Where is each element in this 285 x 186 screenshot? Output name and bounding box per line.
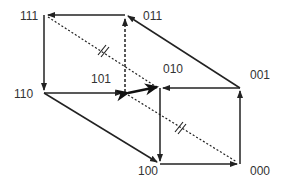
vertex-label-001: 001 xyxy=(250,69,270,81)
cube-transition-diagram xyxy=(0,0,285,186)
parallel-mark-lower xyxy=(175,122,186,134)
vertex-label-110: 110 xyxy=(14,88,33,100)
edge-101-010-bold xyxy=(128,87,157,93)
edge-001-011 xyxy=(128,16,240,88)
vertex-label-100: 100 xyxy=(138,165,158,177)
edge-110-100 xyxy=(44,93,157,162)
vertex-label-111: 111 xyxy=(20,10,38,22)
vertex-label-000: 000 xyxy=(250,165,270,177)
vertex-label-011: 011 xyxy=(143,10,162,22)
vertex-label-010: 010 xyxy=(163,63,183,75)
vertex-label-101: 101 xyxy=(91,73,111,85)
